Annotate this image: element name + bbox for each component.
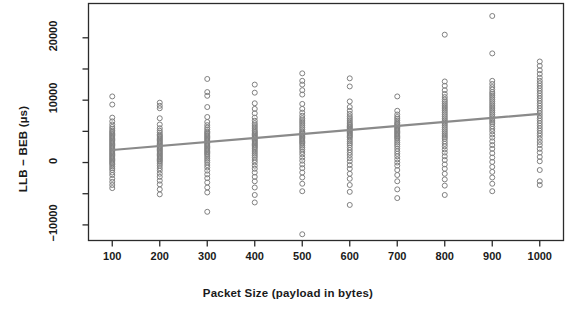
data-point [347, 202, 352, 207]
data-point [300, 232, 305, 237]
data-point [157, 187, 162, 192]
x-tick-label: 400 [246, 250, 264, 262]
x-tick-label: 200 [151, 250, 169, 262]
scatter-plot-figure: LLB − BEB (µs) Packet Size (payload in b… [0, 0, 576, 309]
y-tick-label: 0 [47, 131, 59, 191]
data-point [347, 166, 352, 171]
data-point [537, 182, 542, 187]
data-point [110, 102, 115, 107]
data-point [205, 93, 210, 98]
data-point [157, 182, 162, 187]
data-point [395, 173, 400, 178]
data-point [300, 175, 305, 180]
data-point [490, 189, 495, 194]
data-point [347, 171, 352, 176]
data-point [252, 101, 257, 106]
data-point [205, 76, 210, 81]
data-point [300, 101, 305, 106]
data-point [537, 168, 542, 173]
data-point [347, 176, 352, 181]
data-point [442, 32, 447, 37]
data-point [110, 94, 115, 99]
data-point [205, 105, 210, 110]
y-tick-label: 20000 [47, 6, 59, 66]
data-point [442, 177, 447, 182]
x-tick-label: 100 [103, 250, 121, 262]
data-point [490, 169, 495, 174]
data-points-group [110, 13, 543, 236]
data-point [347, 84, 352, 89]
data-point [490, 164, 495, 169]
x-tick-label: 600 [341, 250, 359, 262]
data-point [300, 82, 305, 87]
data-point [252, 200, 257, 205]
x-tick-label: 900 [483, 250, 501, 262]
data-point [205, 209, 210, 214]
x-tick-label: 1000 [528, 250, 552, 262]
data-point [347, 182, 352, 187]
regression-line [112, 114, 540, 150]
data-point [490, 51, 495, 56]
x-tick-label: 800 [436, 250, 454, 262]
data-point [252, 192, 257, 197]
data-point [347, 99, 352, 104]
data-point [205, 185, 210, 190]
data-point [347, 76, 352, 81]
data-point [442, 171, 447, 176]
data-point [110, 186, 115, 191]
data-point [395, 196, 400, 201]
data-point [157, 116, 162, 121]
data-point [442, 192, 447, 197]
data-point [157, 192, 162, 197]
data-point [395, 179, 400, 184]
y-tick-label: 10000 [47, 68, 59, 128]
x-tick-label: 500 [293, 250, 311, 262]
data-point [300, 71, 305, 76]
plot-canvas [0, 0, 576, 309]
x-tick-label: 700 [388, 250, 406, 262]
data-point [252, 90, 257, 95]
x-tick-label: 300 [198, 250, 216, 262]
data-point [395, 187, 400, 192]
data-point [490, 181, 495, 186]
data-point [252, 185, 257, 190]
y-tick-label: −10000 [47, 193, 59, 253]
data-point [205, 115, 210, 120]
data-point [490, 13, 495, 18]
data-point [490, 175, 495, 180]
data-point [300, 181, 305, 186]
data-point [300, 189, 305, 194]
data-point [442, 183, 447, 188]
data-point [395, 94, 400, 99]
data-point [252, 82, 257, 87]
data-point [347, 189, 352, 194]
data-point [205, 190, 210, 195]
